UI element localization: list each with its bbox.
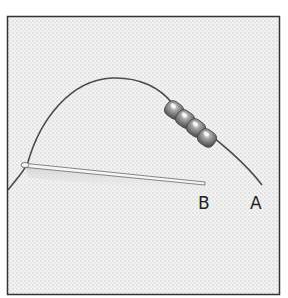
label-b: B <box>198 195 210 212</box>
label-a: A <box>250 195 262 212</box>
beading-illustration: B A <box>0 0 288 298</box>
fabric-background <box>8 17 280 295</box>
illustration-svg <box>0 0 288 298</box>
